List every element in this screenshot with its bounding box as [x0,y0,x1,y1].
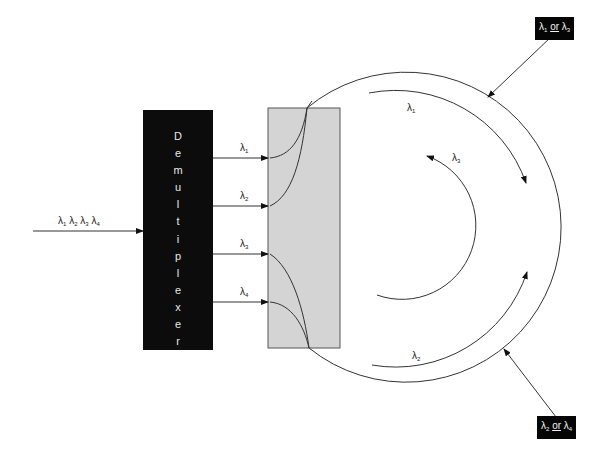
channel-label-1: λ1 [240,142,248,154]
arc-lambda3 [377,156,476,299]
tag-lambda2-or-lambda4: λ2 or λ4 [537,416,576,439]
demux-letter: i [177,231,179,248]
demux-letter: p [175,248,181,265]
ring-label-lambda1: λ1 [407,102,415,114]
demux-letter: e [175,145,181,162]
top-input-arrow [488,37,551,97]
channel-label-2: λ2 [240,190,248,202]
demux-letter: e [175,282,181,299]
demultiplexer-block: D e m u l t i p l e x e r [143,110,213,350]
demultiplexer-label: D e m u l t i p l e x e r [143,128,213,350]
demux-letter: e [175,316,181,333]
demux-letter: t [176,213,179,230]
demux-letter: D [174,128,182,145]
input-wavelengths-label: λ1 λ2 λ3 λ4 [58,215,100,227]
arc-lambda1 [369,90,526,183]
bottom-input-arrow [504,349,556,417]
channel-label-4: λ4 [240,286,248,298]
demux-letter: m [173,162,182,179]
outer-ring [307,72,561,382]
coupler-box [268,108,340,348]
demux-letter: x [175,299,181,316]
arc-lambda2 [372,272,527,367]
demux-letter: r [176,333,180,350]
ring-label-lambda2: λ2 [412,350,420,362]
demux-letter: l [177,265,179,282]
ring-label-lambda3: λ3 [452,152,460,164]
demux-letter: l [177,196,179,213]
tag-lambda1-or-lambda3: λ1 or λ3 [535,17,574,40]
demux-letter: u [175,179,181,196]
diagram-canvas [0,0,602,457]
channel-label-3: λ3 [240,238,248,250]
